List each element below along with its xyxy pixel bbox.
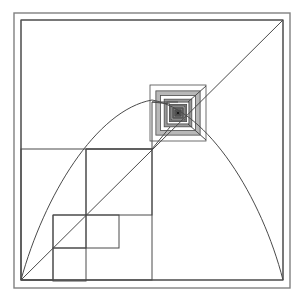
figure-root: A square frame containing a diagonal lin… (0, 0, 304, 304)
nested-square-core (177, 112, 180, 115)
geometry-figure (0, 0, 304, 304)
